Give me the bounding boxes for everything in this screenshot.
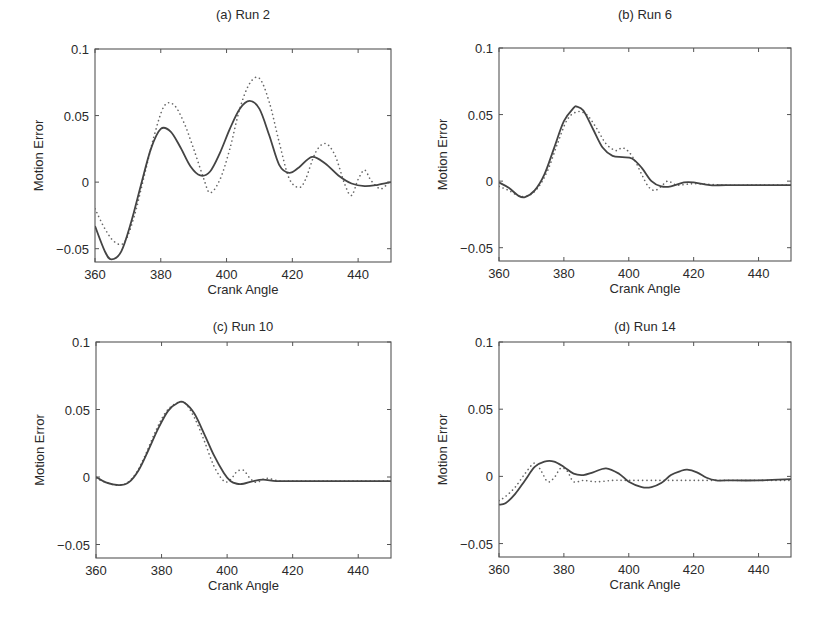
y-tick-label: −0.05: [56, 242, 89, 257]
x-tick-label: 360: [84, 267, 106, 282]
axes-frame: [499, 342, 791, 557]
x-tick-label: 380: [151, 563, 173, 578]
figure-canvas: (a) Run 2 360380400420440−0.0500.050.1Cr…: [0, 0, 818, 618]
plot-area: [95, 77, 391, 259]
x-axis-label: Crank Angle: [208, 578, 279, 593]
panel-c: (c) Run 10 360380400420440−0.0500.050.1C…: [32, 319, 391, 593]
y-axis-label: Motion Error: [32, 414, 47, 486]
y-tick-label: 0: [83, 470, 90, 485]
solid-line: [499, 461, 791, 505]
y-tick-label: 0.1: [72, 335, 90, 350]
x-axis-label: Crank Angle: [208, 282, 279, 297]
plot-area: [96, 402, 391, 486]
x-axis-label: Crank Angle: [610, 577, 681, 592]
y-tick-label: 0.05: [468, 108, 493, 123]
y-tick-label: 0: [486, 469, 493, 484]
panel-title: (d) Run 14: [614, 319, 675, 334]
y-tick-label: 0.1: [71, 42, 89, 57]
y-axis-label: Motion Error: [31, 119, 46, 191]
y-tick-label: 0: [486, 174, 493, 189]
solid-line: [499, 106, 791, 197]
dotted-line: [95, 77, 391, 245]
x-tick-label: 420: [282, 563, 304, 578]
x-tick-label: 360: [85, 563, 107, 578]
plot-area: [499, 461, 791, 505]
panel-a: (a) Run 2 360380400420440−0.0500.050.1Cr…: [31, 7, 391, 297]
axes-frame: [95, 49, 391, 262]
solid-line: [95, 101, 391, 259]
y-axis-label: Motion Error: [435, 413, 450, 485]
panel-title: (b) Run 6: [618, 7, 672, 22]
x-tick-label: 400: [216, 267, 238, 282]
x-tick-label: 440: [748, 266, 770, 281]
y-tick-label: 0.05: [468, 402, 493, 417]
x-tick-label: 440: [347, 563, 369, 578]
x-tick-label: 440: [347, 267, 369, 282]
y-tick-label: 0.05: [65, 403, 90, 418]
y-tick-label: 0.1: [475, 335, 493, 350]
y-tick-label: 0.1: [475, 41, 493, 56]
x-tick-label: 400: [216, 563, 238, 578]
panel-title: (c) Run 10: [213, 319, 274, 334]
solid-line: [96, 402, 391, 486]
x-axis-label: Crank Angle: [610, 281, 681, 296]
x-tick-label: 420: [683, 562, 705, 577]
dotted-line: [499, 463, 791, 501]
dotted-line: [96, 402, 391, 486]
x-tick-label: 380: [553, 562, 575, 577]
y-tick-label: −0.05: [57, 538, 90, 553]
y-tick-label: −0.05: [460, 537, 493, 552]
x-tick-label: 440: [748, 562, 770, 577]
x-tick-label: 420: [281, 267, 303, 282]
y-tick-label: 0: [82, 175, 89, 190]
x-tick-label: 380: [553, 266, 575, 281]
x-tick-label: 360: [488, 562, 510, 577]
x-tick-label: 360: [488, 266, 510, 281]
x-tick-label: 400: [618, 266, 640, 281]
panel-title: (a) Run 2: [216, 7, 270, 22]
x-tick-label: 400: [618, 562, 640, 577]
figure: (a) Run 2 360380400420440−0.0500.050.1Cr…: [0, 0, 818, 618]
x-tick-label: 380: [150, 267, 172, 282]
axes-frame: [96, 342, 391, 558]
y-tick-label: 0.05: [64, 109, 89, 124]
panel-d: (d) Run 14 360380400420440−0.0500.050.1C…: [435, 319, 791, 592]
dotted-line: [499, 112, 791, 197]
y-tick-label: −0.05: [460, 241, 493, 256]
panel-b: (b) Run 6 360380400420440−0.0500.050.1Cr…: [435, 7, 791, 296]
y-axis-label: Motion Error: [435, 118, 450, 190]
plot-area: [499, 106, 791, 197]
x-tick-label: 420: [683, 266, 705, 281]
axes-frame: [499, 48, 791, 261]
